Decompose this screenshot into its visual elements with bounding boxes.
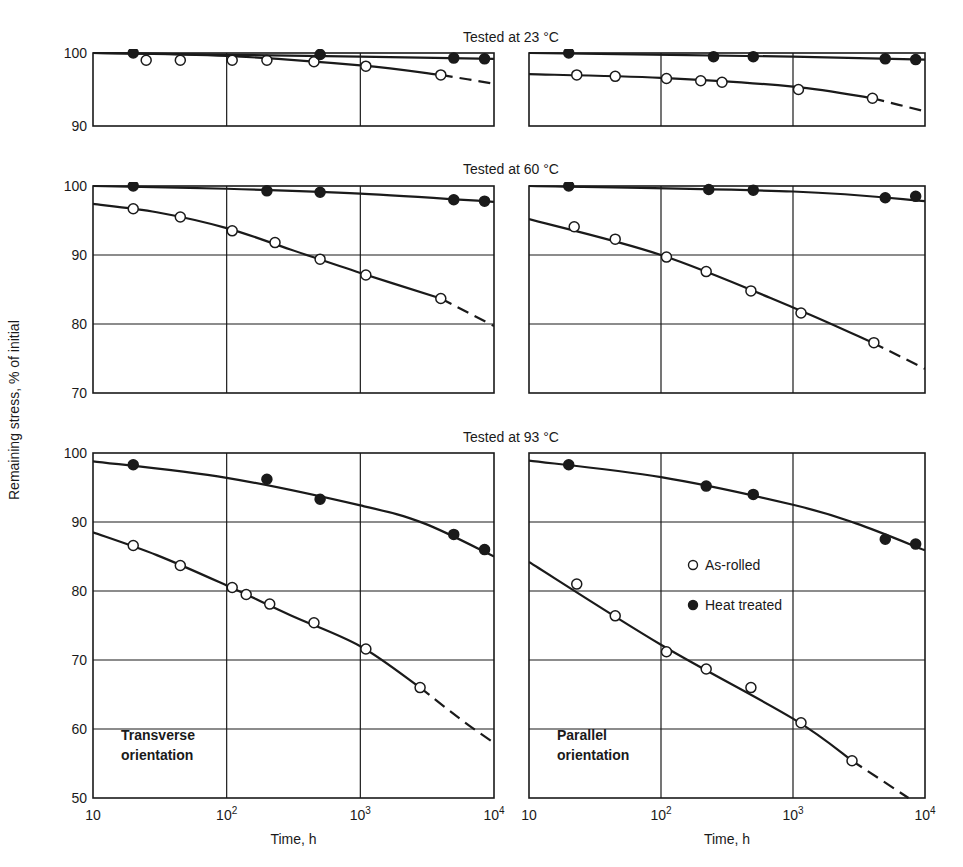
x-tick-label: 102 <box>650 805 672 823</box>
as-rolled-point <box>661 647 671 657</box>
heat-treated-point <box>564 181 574 191</box>
extrapolated-curve <box>441 75 494 84</box>
orientation-label: Parallel <box>557 727 607 743</box>
as-rolled-point <box>746 683 756 693</box>
as-rolled-point <box>572 579 582 589</box>
heat-treated-point <box>128 460 138 470</box>
as-rolled-point <box>796 308 806 318</box>
x-tick-label: 10 <box>85 807 101 823</box>
x-tick-label: 104 <box>483 805 505 823</box>
heat-treated-point <box>911 539 921 549</box>
legend-filled-circle-icon <box>689 601 698 610</box>
fit-curve <box>93 204 441 299</box>
as-rolled-point <box>175 212 185 222</box>
as-rolled-point <box>227 583 237 593</box>
as-rolled-point <box>128 540 138 550</box>
y-tick-label: 90 <box>71 247 87 263</box>
heat-treated-point <box>704 184 714 194</box>
heat-treated-point <box>880 193 890 203</box>
extrapolated-curve <box>441 298 494 326</box>
heat-treated-point <box>480 196 490 206</box>
fit-curve <box>93 461 494 556</box>
as-rolled-point <box>309 618 319 628</box>
as-rolled-point <box>436 293 446 303</box>
as-rolled-point <box>847 756 857 766</box>
as-rolled-point <box>610 234 620 244</box>
panel-title: Tested at 23 °C <box>463 29 559 45</box>
y-tick-label: 80 <box>71 316 87 332</box>
heat-treated-point <box>315 494 325 504</box>
orientation-label: Transverse <box>121 727 195 743</box>
y-axis-label: Remaining stress, % of initial <box>6 320 22 500</box>
heat-treated-point <box>880 54 890 64</box>
heat-treated-point <box>748 489 758 499</box>
y-tick-label: 70 <box>71 652 87 668</box>
extrapolated-curve <box>872 343 925 369</box>
as-rolled-point <box>661 252 671 262</box>
y-tick-label: 60 <box>71 721 87 737</box>
orientation-label: orientation <box>121 747 193 763</box>
y-tick-label: 90 <box>71 118 87 134</box>
plot-panel-transverse <box>93 181 494 393</box>
heat-treated-point <box>480 545 490 555</box>
as-rolled-point <box>141 55 151 65</box>
as-rolled-point <box>661 74 671 84</box>
legend-label: As-rolled <box>705 557 760 573</box>
heat-treated-point <box>262 186 272 196</box>
heat-treated-point <box>449 195 459 205</box>
heat-treated-point <box>480 54 490 64</box>
as-rolled-point <box>793 85 803 95</box>
as-rolled-point <box>415 683 425 693</box>
heat-treated-point <box>709 52 719 62</box>
as-rolled-point <box>265 599 275 609</box>
as-rolled-point <box>701 267 711 277</box>
as-rolled-point <box>361 644 371 654</box>
panel-title: Tested at 60 °C <box>463 161 559 177</box>
heat-treated-point <box>564 48 574 58</box>
extrapolated-curve <box>852 761 908 798</box>
extrapolated-curve <box>420 688 494 743</box>
heat-treated-point <box>564 460 574 470</box>
as-rolled-point <box>262 55 272 65</box>
heat-treated-point <box>449 53 459 63</box>
heat-treated-point <box>911 55 921 65</box>
as-rolled-point <box>796 718 806 728</box>
as-rolled-point <box>361 61 371 71</box>
heat-treated-point <box>880 534 890 544</box>
fit-curve <box>93 53 494 59</box>
as-rolled-point <box>867 93 877 103</box>
plot-panel-transverse <box>93 48 494 126</box>
x-tick-label: 10 <box>521 807 537 823</box>
as-rolled-point <box>175 55 185 65</box>
heat-treated-point <box>701 481 711 491</box>
heat-treated-point <box>128 181 138 191</box>
as-rolled-point <box>227 226 237 236</box>
as-rolled-point <box>746 286 756 296</box>
plot-panel-parallel <box>529 181 925 393</box>
as-rolled-point <box>315 254 325 264</box>
as-rolled-point <box>701 664 711 674</box>
as-rolled-point <box>128 204 138 214</box>
as-rolled-point <box>241 589 251 599</box>
as-rolled-point <box>869 338 879 348</box>
as-rolled-point <box>569 222 579 232</box>
heat-treated-point <box>748 52 758 62</box>
legend-label: Heat treated <box>705 597 782 613</box>
as-rolled-point <box>696 76 706 86</box>
as-rolled-point <box>572 70 582 80</box>
as-rolled-point <box>717 77 727 87</box>
y-tick-label: 70 <box>71 385 87 401</box>
x-tick-label: 102 <box>216 805 238 823</box>
y-tick-label: 80 <box>71 583 87 599</box>
as-rolled-point <box>227 55 237 65</box>
heat-treated-point <box>449 529 459 539</box>
fit-curve <box>93 186 494 202</box>
x-tick-label: 104 <box>914 805 936 823</box>
fit-curve <box>529 186 925 201</box>
legend-open-circle-icon <box>689 561 698 570</box>
fit-curve <box>93 532 420 687</box>
relaxation-figure: Tested at 23 °C90100Tested at 60 °C70809… <box>0 0 963 867</box>
as-rolled-point <box>270 238 280 248</box>
as-rolled-point <box>361 270 371 280</box>
y-tick-label: 100 <box>64 178 88 194</box>
